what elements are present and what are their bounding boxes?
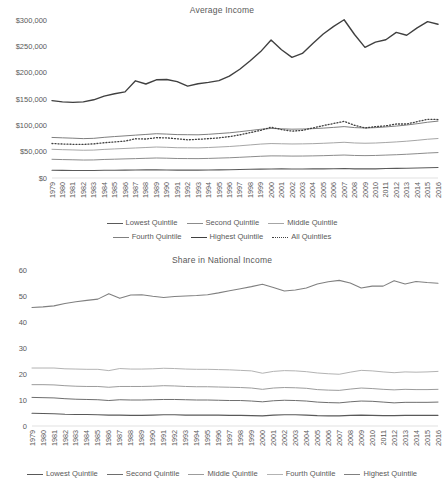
x-tick-label: 1997 [235, 182, 244, 198]
y-tick-label: 10 [19, 396, 27, 405]
chart-title-share-in-national-income: Share in National Income [0, 250, 444, 266]
legend-label: Middle Quintile [207, 469, 257, 479]
x-tick-label: 1986 [104, 430, 113, 446]
chart-title-average-income: Average Income [0, 0, 444, 16]
legend-item-fourth-quintile[interactable]: Fourth Quintile [267, 469, 336, 479]
x-tick-label: 1988 [141, 182, 150, 198]
average-income-legend-row-2: Fourth QuintileHighest QuintileAll Quint… [0, 232, 444, 242]
y-tick-label: 50 [19, 292, 27, 301]
x-tick-label: 1997 [225, 430, 234, 446]
legend-item-highest-quintile[interactable]: Highest Quintile [344, 469, 417, 479]
legend-item-all-quintiles[interactable]: All Quintiles [272, 232, 331, 242]
legend-swatch-icon [268, 223, 284, 224]
x-tick-label: 2012 [392, 182, 401, 198]
legend-swatch-icon [27, 474, 43, 475]
average-income-plot: $0$50,000$100,000$150,000$200,000$250,00… [0, 16, 444, 216]
legend-label: Highest Quintile [210, 232, 264, 242]
legend-item-fourth-quintile[interactable]: Fourth Quintile [113, 232, 182, 242]
x-tick-label: 1988 [126, 430, 135, 446]
series-line-lowest-quintile [32, 413, 438, 416]
x-tick-label: 2001 [269, 430, 278, 446]
x-tick-label: 2010 [368, 430, 377, 446]
legend-swatch-icon [267, 474, 283, 475]
x-tick-label: 1989 [152, 182, 161, 198]
legend-swatch-icon [191, 237, 207, 238]
x-tick-label: 1990 [148, 430, 157, 446]
x-tick-label: 2000 [258, 430, 267, 446]
x-tick-label: 1992 [183, 182, 192, 198]
x-tick-label: 1984 [100, 182, 109, 198]
series-line-all-quintiles [52, 119, 438, 144]
legend-item-lowest-quintile[interactable]: Lowest Quintile [27, 469, 98, 479]
x-tick-label: 1985 [93, 430, 102, 446]
x-tick-label: 2007 [335, 430, 344, 446]
x-tick-label: 2013 [402, 182, 411, 198]
x-tick-label: 1989 [137, 430, 146, 446]
x-tick-label: 2006 [329, 182, 338, 198]
legend-label: Lowest Quintile [126, 218, 178, 228]
series-line-fourth-quintile [52, 121, 438, 138]
average-income-chart: Average Income $0$50,000$100,000$150,000… [0, 0, 444, 250]
x-tick-label: 2009 [357, 430, 366, 446]
x-tick-label: 1983 [71, 430, 80, 446]
series-line-second-quintile [32, 397, 438, 402]
y-tick-label: 20 [19, 370, 27, 379]
legend-swatch-icon [272, 237, 288, 238]
y-tick-label: $50,000 [20, 147, 47, 156]
x-tick-label: 2014 [412, 430, 421, 446]
legend-swatch-icon [344, 474, 360, 475]
x-tick-label: 1998 [246, 182, 255, 198]
legend-swatch-icon [188, 474, 204, 475]
x-tick-label: 2003 [298, 182, 307, 198]
legend-item-middle-quintile[interactable]: Middle Quintile [188, 469, 257, 479]
series-line-middle-quintile [52, 139, 438, 151]
y-tick-label: 60 [19, 266, 27, 275]
legend-item-second-quintile[interactable]: Second Quintile [187, 218, 260, 228]
x-tick-label: 2006 [324, 430, 333, 446]
x-tick-label: 1982 [61, 430, 70, 446]
x-tick-label: 1994 [204, 182, 213, 198]
share-in-national-income-legend-row-1: Lowest QuintileSecond QuintileMiddle Qui… [0, 469, 444, 479]
x-tick-label: 1995 [203, 430, 212, 446]
x-tick-label: 1980 [58, 182, 67, 198]
series-line-lowest-quintile [52, 167, 438, 170]
y-tick-label: $200,000 [16, 68, 47, 77]
share-in-national-income-plot: 0102030405060197919801981198219831984198… [0, 266, 444, 466]
x-tick-label: 1982 [79, 182, 88, 198]
legend-label: Second Quintile [206, 218, 260, 228]
x-tick-label: 1998 [236, 430, 245, 446]
x-tick-label: 1983 [89, 182, 98, 198]
legend-swatch-icon [107, 223, 123, 224]
x-tick-label: 1999 [247, 430, 256, 446]
x-tick-label: 1993 [181, 430, 190, 446]
legend-label: Highest Quintile [363, 469, 417, 479]
x-tick-label: 2004 [308, 182, 317, 198]
series-line-second-quintile [52, 153, 438, 160]
y-tick-label: 30 [19, 344, 27, 353]
x-tick-label: 1987 [131, 182, 140, 198]
legend-swatch-icon [187, 223, 203, 224]
x-tick-label: 1987 [115, 430, 124, 446]
legend-item-highest-quintile[interactable]: Highest Quintile [191, 232, 264, 242]
legend-label: All Quintiles [291, 232, 331, 242]
x-tick-label: 1996 [214, 430, 223, 446]
x-tick-label: 1981 [68, 182, 77, 198]
x-tick-label: 1979 [28, 430, 37, 446]
x-tick-label: 2014 [413, 182, 422, 198]
x-tick-label: 2001 [277, 182, 286, 198]
y-tick-label: $0 [39, 174, 47, 183]
legend-item-middle-quintile[interactable]: Middle Quintile [268, 218, 337, 228]
series-line-fourth-quintile [32, 368, 438, 374]
legend-item-second-quintile[interactable]: Second Quintile [107, 469, 180, 479]
legend-swatch-icon [107, 474, 123, 475]
y-tick-label: $300,000 [16, 16, 47, 25]
y-tick-label: 40 [19, 318, 27, 327]
x-tick-label: 1980 [39, 430, 48, 446]
x-tick-label: 2004 [302, 430, 311, 446]
series-line-highest-quintile [52, 20, 438, 103]
legend-item-lowest-quintile[interactable]: Lowest Quintile [107, 218, 178, 228]
series-line-highest-quintile [32, 280, 438, 307]
x-tick-label: 1991 [173, 182, 182, 198]
y-tick-label: $100,000 [16, 121, 47, 130]
chart-page: Average Income $0$50,000$100,000$150,000… [0, 0, 444, 495]
